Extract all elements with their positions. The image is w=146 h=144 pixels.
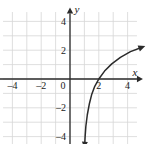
x-tick-label: 4	[125, 80, 130, 91]
coordinate-plane: –4–2024–4–224 x y	[0, 0, 146, 144]
origin-label: 0	[61, 80, 66, 91]
y-tick-label: –4	[55, 131, 66, 142]
y-axis-label: y	[74, 3, 80, 15]
x-tick-label: 2	[96, 80, 101, 91]
y-tick-label: 4	[61, 16, 66, 27]
graph-figure: –4–2024–4–224 x y	[0, 0, 146, 144]
x-axis-label: x	[132, 66, 138, 78]
y-tick-label: –2	[55, 102, 66, 113]
x-tick-label: –2	[35, 80, 46, 91]
y-tick-label: 2	[61, 45, 66, 56]
x-tick-label: –4	[6, 80, 17, 91]
